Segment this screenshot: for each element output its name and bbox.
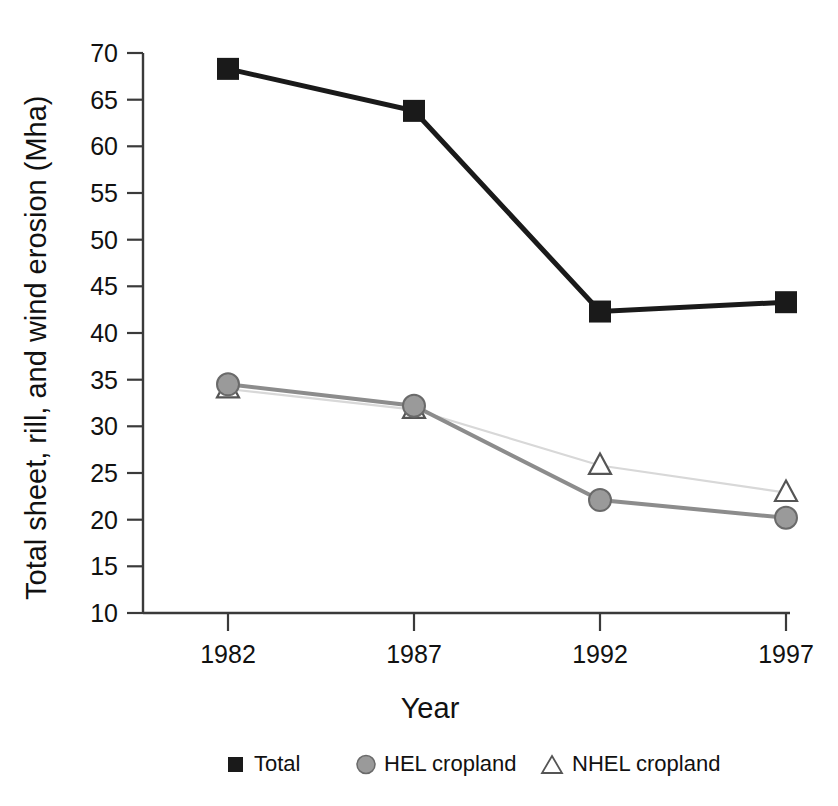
y-axis-title: Total sheet, rill, and wind erosion (Mha… bbox=[20, 95, 52, 600]
y-tick-label-15: 15 bbox=[90, 552, 118, 580]
hel-cropland-point-1987 bbox=[403, 395, 425, 417]
total-point-1992 bbox=[589, 301, 611, 323]
legend-square-marker-total bbox=[228, 757, 243, 772]
total-point-1982 bbox=[217, 58, 239, 80]
y-tick-label-30: 30 bbox=[90, 412, 118, 440]
y-tick-label-10: 10 bbox=[90, 599, 118, 627]
y-tick-label-40: 40 bbox=[90, 319, 118, 347]
x-axis-title: Year bbox=[401, 692, 460, 724]
erosion-line-chart: Total sheet, rill, and wind erosion (Mha… bbox=[0, 0, 838, 806]
y-tick-label-70: 70 bbox=[90, 39, 118, 67]
y-tick-label-35: 35 bbox=[90, 366, 118, 394]
hel-cropland-point-1982 bbox=[217, 373, 239, 395]
hel-cropland-point-1997 bbox=[775, 507, 797, 529]
legend-label-hel-cropland: HEL cropland bbox=[384, 751, 516, 776]
y-tick-label-55: 55 bbox=[90, 179, 118, 207]
total-point-1987 bbox=[403, 100, 425, 122]
y-tick-label-25: 25 bbox=[90, 459, 118, 487]
legend-label-total: Total bbox=[254, 751, 300, 776]
x-tick-label-1982: 1982 bbox=[200, 640, 256, 668]
y-tick-label-60: 60 bbox=[90, 132, 118, 160]
y-tick-label-45: 45 bbox=[90, 272, 118, 300]
total-point-1997 bbox=[775, 291, 797, 313]
hel-cropland-point-1992 bbox=[589, 489, 611, 511]
y-tick-label-65: 65 bbox=[90, 86, 118, 114]
legend-circle-marker-hel bbox=[357, 756, 375, 774]
x-tick-label-1997: 1997 bbox=[758, 640, 814, 668]
x-tick-label-1987: 1987 bbox=[386, 640, 442, 668]
chart-page: Total sheet, rill, and wind erosion (Mha… bbox=[0, 0, 838, 806]
y-tick-label-50: 50 bbox=[90, 226, 118, 254]
x-tick-label-1992: 1992 bbox=[572, 640, 628, 668]
y-tick-label-20: 20 bbox=[90, 506, 118, 534]
legend-label-nhel-cropland: NHEL cropland bbox=[572, 751, 720, 776]
